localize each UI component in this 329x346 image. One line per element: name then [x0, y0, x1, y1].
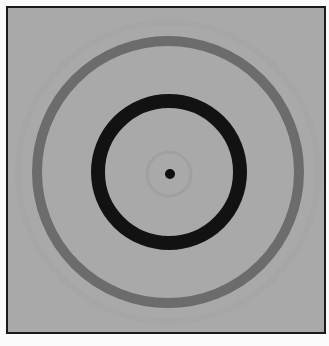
ring-figure: [8, 8, 324, 332]
image-frame: [6, 6, 326, 334]
background: [8, 8, 324, 332]
center-dot: [165, 169, 175, 179]
